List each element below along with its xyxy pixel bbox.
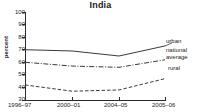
series-line-rural [25,79,165,92]
annotation-national: national [166,47,187,54]
annotation-rural: rural [168,65,180,72]
annotation-average: average [166,54,188,61]
series-line-urban [25,46,165,56]
series-line-national-average [25,60,165,68]
annotation-urban: urban [166,38,181,45]
chart-container: India percent 100 90 80 70 60 50 40 30 1… [0,0,201,112]
